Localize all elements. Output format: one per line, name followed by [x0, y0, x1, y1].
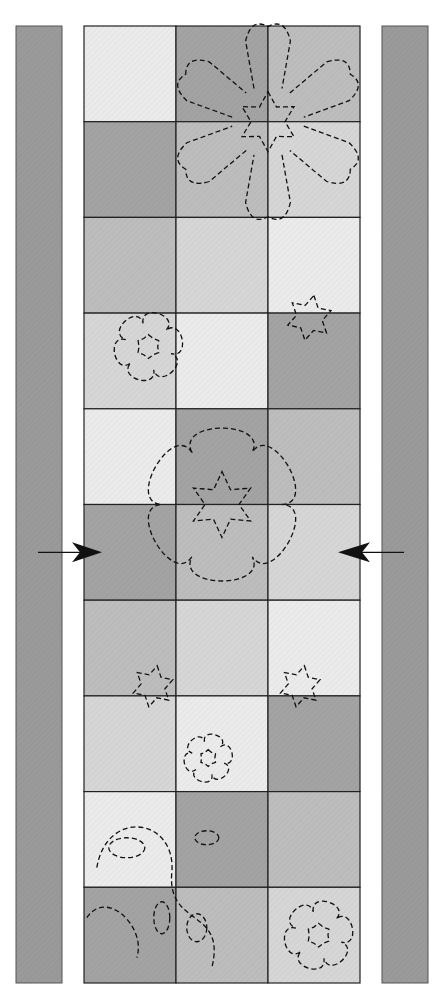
cell-texture [176, 409, 268, 505]
cell-texture [268, 26, 360, 122]
cell-texture [176, 505, 268, 601]
cell-texture [268, 792, 360, 888]
cell-texture [268, 217, 360, 313]
cell-texture [84, 600, 176, 696]
strip-texture [16, 26, 62, 983]
left-border-strip [16, 26, 62, 983]
cell-texture [176, 313, 268, 409]
cell-texture [176, 887, 268, 983]
cell-texture [84, 696, 176, 792]
cell-texture [84, 122, 176, 218]
cell-texture [176, 792, 268, 888]
cell-texture [176, 217, 268, 313]
cell-texture [268, 600, 360, 696]
quilt-diagram [0, 0, 438, 985]
cell-texture [268, 696, 360, 792]
strip-texture [382, 26, 428, 983]
right-border-strip [382, 26, 428, 983]
cell-texture [84, 217, 176, 313]
cell-texture [176, 122, 268, 218]
quilt-grid [84, 26, 360, 983]
cell-texture [268, 313, 360, 409]
cell-texture [84, 313, 176, 409]
cell-texture [176, 600, 268, 696]
cell-texture [84, 26, 176, 122]
